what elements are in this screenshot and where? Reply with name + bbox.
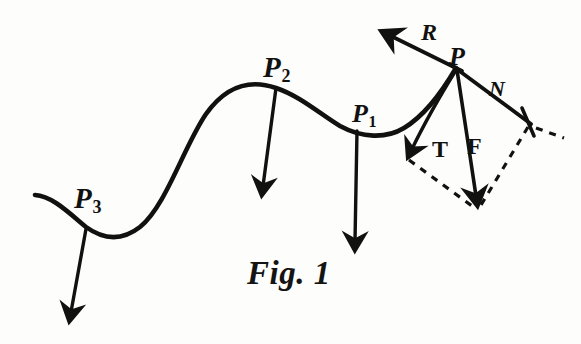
weight-arrow-p1 — [355, 131, 357, 241]
weight-arrow-p3 — [71, 229, 86, 312]
label-t-base: T — [432, 136, 448, 162]
label-f: F — [467, 134, 482, 158]
label-p: P — [449, 44, 465, 70]
figure-drawing — [0, 0, 581, 344]
label-p3-base: P — [74, 182, 92, 214]
label-n: N — [489, 78, 505, 100]
dashed-edge-left — [409, 160, 472, 206]
label-t: T — [432, 137, 448, 161]
figure-container: P3 P2 P1 P R N T F Fig. 1 — [0, 0, 581, 344]
figure-caption: Fig. 1 — [247, 255, 331, 292]
label-n-base: N — [489, 76, 505, 101]
label-p1-base: P — [352, 99, 368, 128]
label-p-base: P — [449, 42, 465, 71]
dashed-edge-right — [481, 127, 528, 205]
dashed-tail-segment — [536, 128, 564, 138]
label-p2-subscript: 2 — [281, 66, 290, 86]
label-p1-subscript: 1 — [369, 113, 377, 130]
label-p3: P3 — [74, 184, 101, 213]
label-r-base: R — [421, 19, 437, 45]
label-p3-subscript: 3 — [92, 197, 101, 217]
weight-arrow-p2 — [263, 88, 276, 186]
label-r: R — [421, 20, 437, 44]
label-f-base: F — [467, 133, 482, 159]
label-p2-base: P — [263, 51, 281, 83]
label-p1: P1 — [352, 101, 376, 127]
label-p2: P2 — [263, 53, 290, 82]
